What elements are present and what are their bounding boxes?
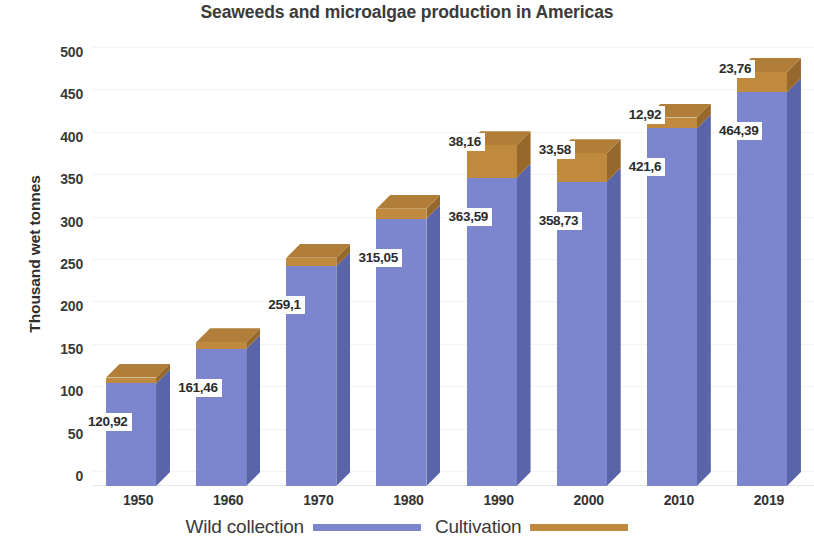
x-tick-label: 1970 [278, 492, 358, 508]
bar-column[interactable] [737, 50, 801, 486]
chart-container: Seaweeds and microalgae production in Am… [0, 0, 814, 547]
data-label-wild-collection: 358,73 [535, 212, 583, 230]
x-tick-label: 1990 [459, 492, 539, 508]
bar-segment-wild-collection[interactable] [106, 383, 156, 486]
legend-item[interactable]: Wild collection [186, 516, 421, 538]
y-tick-label: 300 [37, 214, 83, 230]
x-tick-label: 1950 [98, 492, 178, 508]
x-tick-label: 2000 [549, 492, 629, 508]
bar-segment-wild-collection[interactable] [647, 128, 697, 486]
bar-segment-cultivation[interactable] [376, 209, 426, 219]
chart-legend: Wild collectionCultivation [0, 516, 814, 538]
y-tick-label: 100 [37, 383, 83, 399]
x-tick-label: 2019 [729, 492, 809, 508]
bar-side-wild-collection [517, 164, 531, 486]
data-label-wild-collection: 315,05 [354, 249, 402, 267]
legend-item[interactable]: Cultivation [435, 516, 629, 538]
data-label-wild-collection: 421,6 [625, 158, 665, 176]
legend-swatch [313, 524, 421, 531]
bar-side-wild-collection [426, 205, 440, 486]
bar-column[interactable] [467, 123, 531, 486]
y-tick-label: 150 [37, 341, 83, 357]
data-label-cultivation: 12,92 [625, 106, 665, 124]
bar-side-wild-collection [336, 252, 350, 486]
bar-segment-wild-collection[interactable] [196, 349, 246, 486]
bar-column[interactable] [557, 131, 621, 486]
data-label-wild-collection: 464,39 [715, 122, 763, 140]
bar-column[interactable] [647, 96, 711, 486]
bar-side-wild-collection [697, 114, 711, 486]
data-label-wild-collection: 363,59 [445, 208, 493, 226]
bar-side-wild-collection [156, 369, 170, 486]
bar-side-wild-collection [246, 335, 260, 486]
x-tick-label: 2010 [639, 492, 719, 508]
gridline [93, 89, 814, 90]
bar-column[interactable] [376, 187, 440, 486]
data-label-cultivation: 38,16 [445, 133, 485, 151]
data-label-cultivation: 33,58 [535, 141, 575, 159]
y-tick-label: 350 [37, 171, 83, 187]
bar-column[interactable] [196, 320, 260, 486]
x-tick-label: 1980 [368, 492, 448, 508]
y-tick-label: 500 [37, 44, 83, 60]
data-label-wild-collection: 120,92 [84, 413, 132, 431]
bar-segment-cultivation[interactable] [196, 342, 246, 349]
bar-side-wild-collection [607, 168, 621, 486]
bar-column[interactable] [286, 236, 350, 486]
legend-swatch [530, 524, 628, 531]
y-tick-label: 450 [37, 86, 83, 102]
y-tick-label: 250 [37, 256, 83, 272]
data-label-wild-collection: 161,46 [174, 379, 222, 397]
data-label-cultivation: 23,76 [715, 60, 755, 78]
x-tick-label: 1960 [188, 492, 268, 508]
bar-segment-wild-collection[interactable] [737, 92, 787, 486]
data-label-wild-collection: 259,1 [264, 296, 304, 314]
y-tick-label: 200 [37, 298, 83, 314]
y-tick-label: 0 [37, 468, 83, 484]
plot-area: 120,92161,46259,1315,05363,5938,16358,73… [93, 38, 814, 486]
y-tick-label: 50 [37, 426, 83, 442]
legend-label: Wild collection [186, 516, 304, 538]
bar-segment-cultivation[interactable] [286, 258, 336, 266]
legend-label: Cultivation [435, 516, 522, 538]
bar-segment-cultivation[interactable] [106, 378, 156, 384]
y-tick-label: 400 [37, 129, 83, 145]
gridline [93, 47, 814, 48]
bar-side-wild-collection [787, 78, 801, 486]
chart-title: Seaweeds and microalgae production in Am… [0, 2, 814, 23]
